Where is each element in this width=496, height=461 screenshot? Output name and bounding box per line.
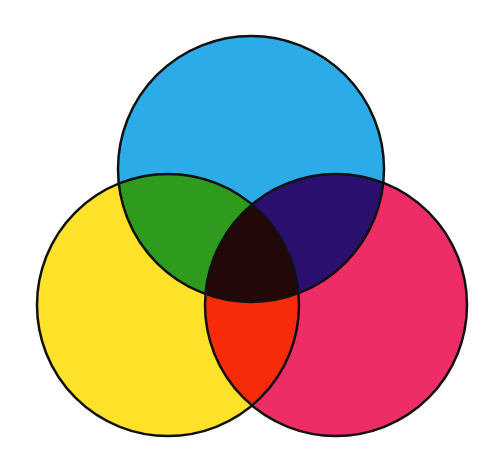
venn-diagram	[0, 0, 496, 461]
